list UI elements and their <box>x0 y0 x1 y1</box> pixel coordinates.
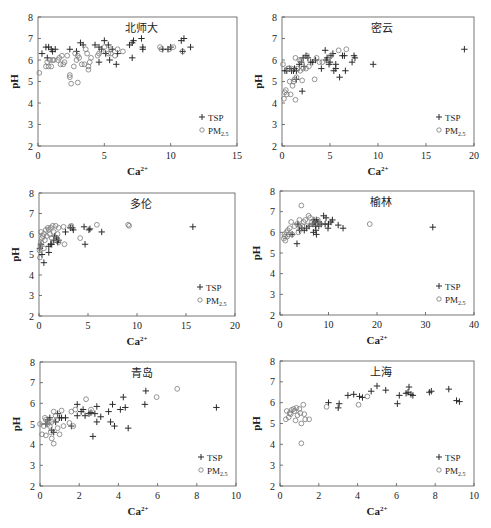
y-tick-label: 8 <box>30 357 35 368</box>
y-tick-label: 6 <box>30 398 35 409</box>
circle-marker <box>324 404 329 409</box>
y-tick-label: 5 <box>270 418 275 429</box>
pm25-series <box>37 45 185 86</box>
plus-marker <box>187 44 193 50</box>
legend-plus-icon <box>436 454 442 460</box>
circle-marker <box>320 60 325 65</box>
legend-circle-icon <box>200 128 204 132</box>
plus-marker <box>368 388 374 394</box>
y-tick-label: 3 <box>30 460 35 471</box>
plus-marker <box>406 384 412 390</box>
subplot-title: 榆林 <box>370 195 392 209</box>
plus-marker <box>41 260 47 266</box>
y-tick-label: 4 <box>29 270 34 281</box>
plus-marker <box>120 394 126 400</box>
plus-marker <box>336 74 342 80</box>
plus-marker <box>456 398 462 404</box>
plus-marker <box>62 229 68 235</box>
x-tick-label: 10 <box>324 319 334 330</box>
plus-marker <box>96 59 102 65</box>
plus-marker <box>105 408 111 414</box>
circle-marker <box>293 418 298 423</box>
y-tick-label: 7 <box>28 33 33 44</box>
plus-marker <box>109 401 115 407</box>
subplot-duolun: 234567805101520pHCa2+多伦TSPPM2.5 <box>9 188 240 348</box>
plus-marker <box>143 388 149 394</box>
legend-circle-icon <box>198 298 202 302</box>
pm25-series <box>281 203 372 243</box>
x-axis-label: Ca2+ <box>128 505 149 517</box>
y-tick-label: 2 <box>28 141 33 152</box>
plus-marker <box>299 88 305 94</box>
y-tick-label: 2 <box>270 481 275 492</box>
legend-plus-icon <box>199 114 205 120</box>
plus-marker <box>383 387 389 393</box>
legend-tsp-label: TSP <box>207 453 223 463</box>
legend-pm25-label: PM2.5 <box>207 466 228 477</box>
legend-pm25-label: PM2.5 <box>445 466 466 477</box>
y-tick-label: 6 <box>29 229 34 240</box>
plus-marker <box>322 47 328 53</box>
circle-marker <box>62 242 67 247</box>
circle-marker <box>89 55 94 60</box>
circle-marker <box>289 220 294 225</box>
plus-marker <box>81 224 87 230</box>
circle-marker <box>356 402 361 407</box>
y-tick-label: 5 <box>28 76 33 87</box>
plus-marker <box>351 391 357 397</box>
plus-marker <box>94 403 100 409</box>
subplot-qingdao: 23456780246810pHCa2+青岛TSPPM2.5 <box>10 357 241 518</box>
circle-marker <box>127 223 132 228</box>
subplot-shanghai: 23456780246810pHCa2+上海TSPPM2.5 <box>250 356 479 518</box>
circle-marker <box>94 222 99 227</box>
y-axis-label: pH <box>252 74 264 89</box>
x-tick-label: 5 <box>328 150 333 161</box>
x-axis-label: Ca2+ <box>127 165 148 177</box>
x-tick-label: 10 <box>166 150 176 161</box>
circle-marker <box>281 62 286 67</box>
tsp-series <box>37 224 196 266</box>
legend-circle-icon <box>437 297 441 301</box>
y-axis-label: pH <box>8 74 20 89</box>
subplot-title: 密云 <box>371 21 393 35</box>
plus-marker <box>318 65 324 71</box>
y-tick-label: 8 <box>28 12 33 23</box>
y-tick-label: 3 <box>272 119 277 130</box>
plus-marker <box>333 61 339 67</box>
circle-marker <box>299 203 304 208</box>
circle-marker <box>65 53 70 58</box>
x-tick-label: 4 <box>355 490 360 501</box>
x-tick-label: 5 <box>102 150 107 161</box>
x-tick-label: 0 <box>36 150 41 161</box>
pm25-series <box>283 394 369 446</box>
x-tick-label: 20 <box>469 150 479 161</box>
plus-marker <box>370 61 376 67</box>
x-tick-label: 15 <box>232 150 242 161</box>
legend-plus-icon <box>436 283 442 289</box>
x-axis-label: Ca2+ <box>127 335 148 347</box>
circle-marker <box>300 78 305 83</box>
y-tick-label: 3 <box>270 289 275 300</box>
y-tick-label: 6 <box>272 55 277 66</box>
circle-marker <box>59 408 64 413</box>
x-tick-label: 5 <box>86 320 91 331</box>
circle-marker <box>73 407 78 412</box>
plus-marker <box>106 57 112 63</box>
pm25-series <box>38 386 180 446</box>
x-tick-label: 2 <box>77 490 82 501</box>
x-tick-label: 30 <box>421 319 431 330</box>
legend-circle-icon <box>199 468 203 472</box>
legend: TSPPM2.5 <box>199 113 229 137</box>
circle-marker <box>75 80 80 85</box>
circle-marker <box>293 97 298 102</box>
y-axis-label: pH <box>10 416 22 431</box>
plus-marker <box>374 383 380 389</box>
tsp-series <box>325 383 462 411</box>
circle-marker <box>55 426 60 431</box>
plus-marker <box>453 397 459 403</box>
plus-marker <box>129 55 135 61</box>
x-tick-label: 8 <box>433 490 438 501</box>
y-tick-label: 2 <box>272 141 277 152</box>
plus-marker <box>396 392 402 398</box>
y-axis-label: pH <box>250 416 262 431</box>
